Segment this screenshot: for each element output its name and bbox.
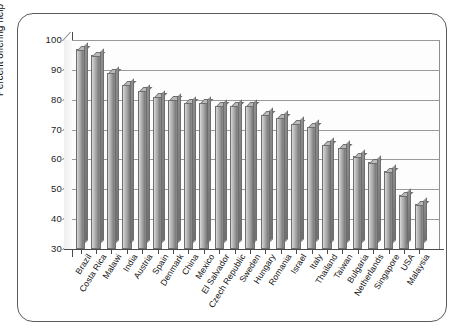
x-tick-mark — [204, 249, 205, 254]
bar — [261, 115, 270, 249]
bar — [291, 124, 300, 249]
y-tick-label: 40 — [36, 213, 62, 224]
bar-side-face — [361, 149, 365, 244]
x-tick-mark — [389, 249, 390, 254]
x-tick-mark — [81, 249, 82, 254]
bar-side-face — [330, 137, 334, 244]
bar-side-face — [192, 95, 196, 244]
bar-side-face — [253, 98, 257, 244]
bar-side-face — [423, 197, 427, 244]
x-tick-mark — [296, 249, 297, 254]
bar — [138, 91, 147, 249]
x-tick-mark — [111, 249, 112, 254]
bar — [384, 171, 393, 249]
x-tick-mark — [219, 249, 220, 254]
y-tick-label: 90 — [36, 64, 62, 75]
bar-side-face — [84, 42, 88, 244]
bar — [107, 73, 116, 249]
figure: Percent offering help 30405060708090100 … — [0, 0, 464, 336]
bar-side-face — [315, 119, 319, 244]
x-tick-mark — [327, 249, 328, 254]
x-tick-mark — [188, 249, 189, 254]
x-tick-mark — [250, 249, 251, 254]
x-tick-mark — [404, 249, 405, 254]
bar — [215, 106, 224, 249]
bar-side-face — [346, 140, 350, 244]
x-tick-mark — [96, 249, 97, 254]
bar-side-face — [377, 155, 381, 244]
y-tick-label: 30 — [36, 243, 62, 254]
bar-side-face — [130, 77, 134, 243]
bar — [415, 204, 424, 249]
plot-right-border — [439, 40, 440, 249]
bar — [338, 148, 347, 250]
bar-side-face — [207, 95, 211, 244]
x-tick-mark — [173, 249, 174, 254]
bar — [122, 85, 131, 249]
plot-area — [72, 40, 440, 249]
bar — [76, 49, 85, 249]
x-tick-mark — [281, 249, 282, 254]
bar — [276, 118, 285, 249]
gridline — [72, 70, 440, 71]
plot-depth-wall — [64, 40, 72, 249]
bar-side-face — [223, 98, 227, 244]
bar-side-face — [161, 89, 165, 244]
bar — [353, 156, 362, 249]
bar — [199, 103, 208, 249]
bar — [322, 145, 331, 250]
x-tick-mark — [235, 249, 236, 254]
y-tick-label: 50 — [36, 183, 62, 194]
bar-side-face — [177, 92, 181, 244]
bar-side-face — [146, 83, 150, 243]
y-tick-label: 80 — [36, 94, 62, 105]
bar — [168, 100, 177, 249]
x-tick-mark — [312, 249, 313, 254]
bar — [245, 106, 254, 249]
y-tick-label: 100 — [36, 34, 62, 45]
y-tick-label: 60 — [36, 153, 62, 164]
x-tick-mark — [127, 249, 128, 254]
bar-side-face — [115, 65, 119, 243]
bar-side-face — [284, 110, 288, 244]
x-tick-mark — [358, 249, 359, 254]
x-tick-mark — [342, 249, 343, 254]
x-tick-mark — [265, 249, 266, 254]
bar — [153, 97, 162, 249]
bar — [307, 127, 316, 249]
bar — [230, 106, 239, 249]
bar-side-face — [100, 48, 104, 244]
gridline — [72, 40, 440, 41]
bar-side-face — [392, 164, 396, 244]
bar — [399, 195, 408, 249]
bar-side-face — [300, 116, 304, 244]
bar — [184, 103, 193, 249]
y-axis-label: Percent offering help — [0, 4, 5, 96]
x-tick-mark — [158, 249, 159, 254]
bar-side-face — [238, 98, 242, 244]
x-tick-mark — [373, 249, 374, 254]
x-axis-line — [64, 249, 444, 250]
x-tick-mark — [419, 249, 420, 254]
y-tick-label: 70 — [36, 124, 62, 135]
bar-side-face — [269, 107, 273, 244]
x-tick-mark — [142, 249, 143, 254]
bar — [368, 162, 377, 249]
bar — [91, 55, 100, 249]
bar-side-face — [407, 188, 411, 244]
